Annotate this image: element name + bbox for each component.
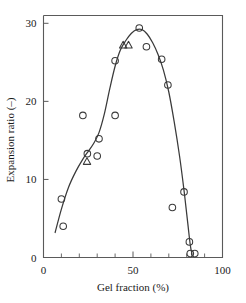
x-tick-label-1: 50 <box>128 264 140 276</box>
y-axis-ticks <box>44 23 49 257</box>
circle-marker-8 <box>136 25 143 32</box>
chart-svg: 0102030 050100 Gel fraction (%) Expansio… <box>0 0 246 303</box>
x-axis-title: Gel fraction (%) <box>97 281 169 294</box>
y-tick-label-3: 30 <box>26 17 38 29</box>
y-axis-title: Expansion ratio (–) <box>4 97 17 182</box>
circle-marker-1 <box>58 196 65 203</box>
circle-marker-6 <box>112 112 119 119</box>
circle-marker-4 <box>94 153 101 160</box>
circle-marker-9 <box>143 43 150 50</box>
circle-marker-12 <box>169 204 176 211</box>
circle-marker-7 <box>112 57 119 64</box>
x-axis-tick-labels: 050100 <box>41 264 232 276</box>
circle-marker-2 <box>80 112 87 119</box>
triangle-data-markers <box>83 41 132 164</box>
y-tick-label-2: 20 <box>26 95 38 107</box>
plot-frame-border <box>44 16 223 258</box>
x-tick-label-0: 0 <box>41 264 47 276</box>
plot-frame <box>44 16 223 258</box>
triangle-marker-0 <box>83 158 90 165</box>
circle-marker-0 <box>60 223 67 230</box>
chart-figure: 0102030 050100 Gel fraction (%) Expansio… <box>0 0 246 303</box>
y-tick-label-0: 0 <box>31 252 37 264</box>
y-axis-tick-labels: 0102030 <box>26 17 38 263</box>
y-tick-label-1: 10 <box>26 173 38 185</box>
triangle-marker-2 <box>125 41 132 48</box>
x-tick-label-2: 100 <box>214 264 231 276</box>
fitted-curve <box>55 29 192 254</box>
